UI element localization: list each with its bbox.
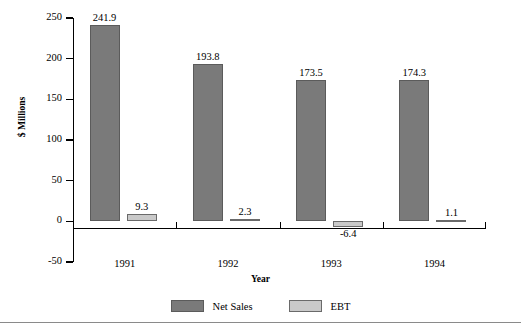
y-axis-tick-label: 150: [26, 93, 62, 103]
bar-ebt-1992: [230, 219, 260, 221]
x-axis-label-1993: 1993: [301, 258, 361, 269]
y-axis-tick: [66, 221, 73, 222]
x-axis-label-1994: 1994: [404, 258, 464, 269]
y-axis-line: [73, 18, 74, 262]
y-axis-tick: [66, 139, 73, 140]
x-axis-group-separator: [280, 222, 281, 229]
bar-net-sales-1992: [193, 64, 223, 222]
y-axis-tick: [66, 261, 73, 262]
x-axis-group-separator: [383, 222, 384, 229]
x-axis-title: Year: [0, 274, 521, 284]
legend-item-ebt: EBT: [289, 300, 351, 312]
y-axis-tick-label: 100: [26, 134, 62, 144]
bar-value-label: 174.3: [394, 67, 434, 78]
x-axis-label-1991: 1991: [95, 258, 155, 269]
bar-value-label: -6.4: [328, 228, 368, 239]
y-axis-tick-label: 200: [26, 53, 62, 63]
bar-ebt-1993: [333, 221, 363, 226]
legend-item-net-sales: Net Sales: [171, 300, 253, 312]
legend-label-net-sales: Net Sales: [213, 301, 253, 312]
y-axis-tick: [66, 180, 73, 181]
bar-value-label: 173.5: [291, 67, 331, 78]
bar-ebt-1991: [127, 214, 157, 222]
bar-net-sales-1994: [399, 80, 429, 222]
bar-chart: $ Millions 250200150100500-50 241.99.319…: [0, 0, 521, 329]
bar-value-label: 241.9: [85, 12, 125, 23]
bar-ebt-1994: [436, 220, 466, 222]
chart-legend: Net Sales EBT: [0, 300, 521, 312]
y-axis-tick: [66, 99, 73, 100]
legend-label-ebt: EBT: [331, 301, 351, 312]
y-axis-tick-label: -50: [26, 256, 62, 266]
y-axis-title: $ Millions: [17, 77, 27, 157]
y-axis-tick-label: 0: [26, 215, 62, 225]
bar-value-label: 1.1: [431, 207, 471, 218]
x-axis-end-cap: [485, 222, 486, 229]
y-axis-tick-label: 50: [26, 175, 62, 185]
y-axis-tick-label: 250: [26, 12, 62, 22]
bar-value-label: 9.3: [122, 201, 162, 212]
bar-net-sales-1991: [90, 25, 120, 222]
bar-value-label: 193.8: [188, 51, 228, 62]
y-axis-tick: [66, 58, 73, 59]
legend-swatch-ebt: [289, 300, 322, 312]
y-axis-tick: [66, 17, 73, 18]
x-axis-label-1992: 1992: [198, 258, 258, 269]
bottom-divider: [0, 322, 521, 323]
x-axis-group-separator: [176, 222, 177, 229]
bar-value-label: 2.3: [225, 206, 265, 217]
legend-swatch-net-sales: [171, 300, 204, 312]
bar-net-sales-1993: [296, 80, 326, 221]
